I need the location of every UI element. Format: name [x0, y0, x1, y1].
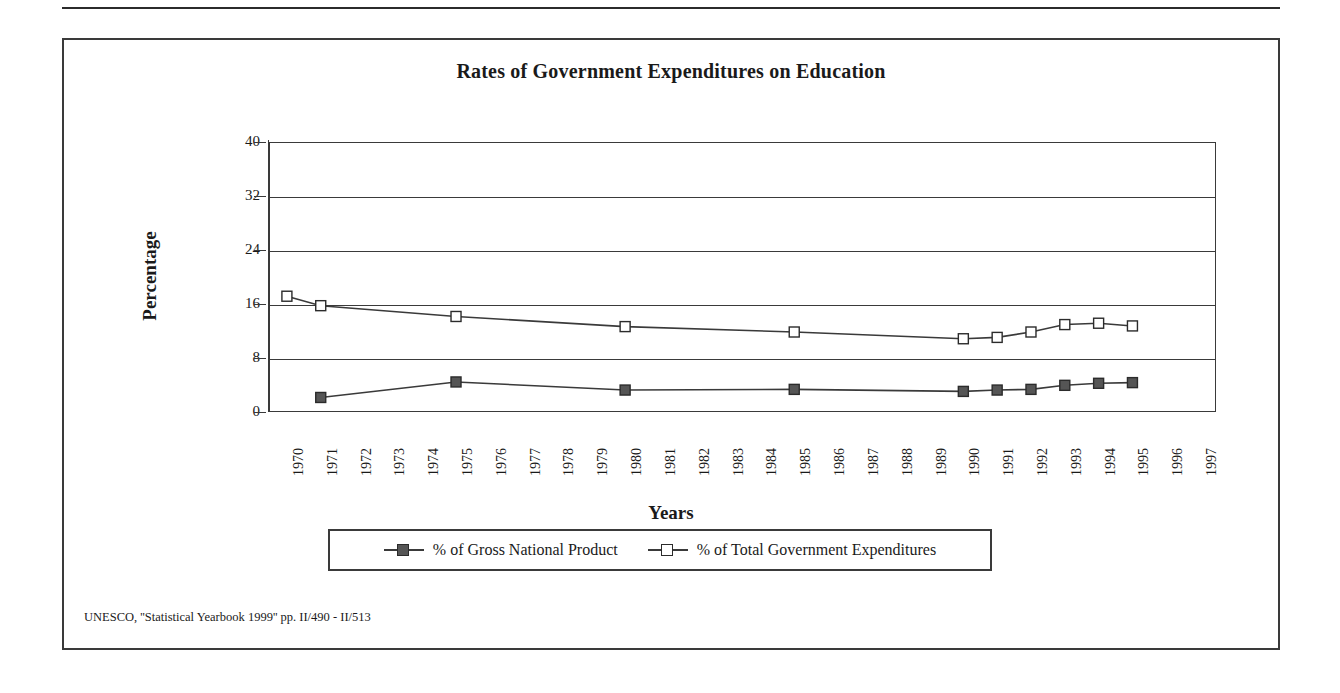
data-point-marker	[992, 332, 1002, 342]
x-tick-label: 1982	[697, 448, 713, 476]
plot-area	[269, 142, 1216, 412]
data-point-marker	[451, 377, 461, 387]
y-tick-label: 32	[200, 187, 260, 204]
data-point-marker	[789, 327, 799, 337]
x-tick-label: 1987	[866, 448, 882, 476]
y-tick-mark	[254, 412, 266, 413]
y-tick-mark	[254, 142, 266, 143]
x-tick-label: 1976	[494, 448, 510, 476]
y-tick-mark	[254, 250, 266, 251]
x-axis-title: Years	[64, 502, 1278, 524]
data-point-marker	[1026, 384, 1036, 394]
x-tick-label: 1975	[460, 448, 476, 476]
x-tick-label: 1986	[832, 448, 848, 476]
data-point-marker	[316, 301, 326, 311]
x-tick-label: 1973	[392, 448, 408, 476]
y-axis-title: Percentage	[139, 231, 161, 320]
data-point-marker	[1094, 378, 1104, 388]
x-tick-label: 1980	[629, 448, 645, 476]
legend-marker-filled-square-icon	[384, 543, 424, 557]
legend-entry-total-gov-exp: % of Total Government Expenditures	[648, 541, 936, 559]
x-tick-label: 1977	[528, 448, 544, 476]
data-point-marker	[1026, 327, 1036, 337]
data-point-marker	[958, 386, 968, 396]
y-tick-mark	[254, 304, 266, 305]
y-tick-mark	[254, 196, 266, 197]
data-point-marker	[620, 322, 630, 332]
data-point-marker	[1127, 321, 1137, 331]
series-layer	[270, 143, 1217, 413]
x-tick-label: 1979	[595, 448, 611, 476]
x-tick-label: 1972	[359, 448, 375, 476]
y-tick-label: 8	[200, 349, 260, 366]
legend-entry-gnp: % of Gross National Product	[384, 541, 618, 559]
data-point-marker	[316, 392, 326, 402]
data-point-marker	[451, 311, 461, 321]
series-gnp	[316, 377, 1138, 403]
y-tick-mark	[254, 358, 266, 359]
x-tick-label: 1990	[967, 448, 983, 476]
x-tick-label: 1974	[426, 448, 442, 476]
x-tick-label: 1984	[764, 448, 780, 476]
data-point-marker	[1060, 320, 1070, 330]
data-point-marker	[1060, 380, 1070, 390]
data-point-marker	[1094, 318, 1104, 328]
data-point-marker	[992, 385, 1002, 395]
data-point-marker	[620, 385, 630, 395]
series-total-gov-exp	[282, 291, 1138, 344]
source-note: UNESCO, ''Statistical Yearbook 1999'' pp…	[84, 610, 371, 625]
x-tick-label: 1970	[291, 448, 307, 476]
y-tick-label: 40	[200, 133, 260, 150]
y-tick-label: 0	[200, 403, 260, 420]
y-tick-label: 24	[200, 241, 260, 258]
legend-label-gnp: % of Gross National Product	[433, 541, 618, 559]
top-horizontal-rule	[62, 7, 1280, 9]
data-point-marker	[282, 291, 292, 301]
x-tick-label: 1985	[798, 448, 814, 476]
x-tick-label: 1994	[1103, 448, 1119, 476]
y-tick-label: 16	[200, 295, 260, 312]
x-tick-label: 1971	[325, 448, 341, 476]
plot-wrapper: Percentage 0816243240	[202, 140, 1216, 412]
x-tick-label: 1997	[1204, 448, 1220, 476]
chart-figure-frame: Rates of Government Expenditures on Educ…	[62, 38, 1280, 650]
x-tick-label: 1991	[1001, 448, 1017, 476]
data-point-marker	[789, 384, 799, 394]
x-tick-label: 1981	[663, 448, 679, 476]
x-tick-label: 1992	[1035, 448, 1051, 476]
data-point-marker	[958, 334, 968, 344]
x-tick-label: 1989	[934, 448, 950, 476]
legend-label-total-gov-exp: % of Total Government Expenditures	[697, 541, 936, 559]
x-tick-label: 1983	[731, 448, 747, 476]
chart-legend: % of Gross National Product % of Total G…	[328, 529, 992, 571]
data-point-marker	[1127, 378, 1137, 388]
x-tick-label: 1988	[900, 448, 916, 476]
legend-marker-hollow-square-icon	[648, 543, 688, 557]
x-tick-label: 1996	[1170, 448, 1186, 476]
x-tick-label: 1978	[561, 448, 577, 476]
chart-title: Rates of Government Expenditures on Educ…	[64, 60, 1278, 83]
x-axis-tick-labels: 1970197119721973197419751976197719781979…	[269, 418, 1283, 480]
x-tick-label: 1995	[1136, 448, 1152, 476]
x-tick-label: 1993	[1069, 448, 1085, 476]
